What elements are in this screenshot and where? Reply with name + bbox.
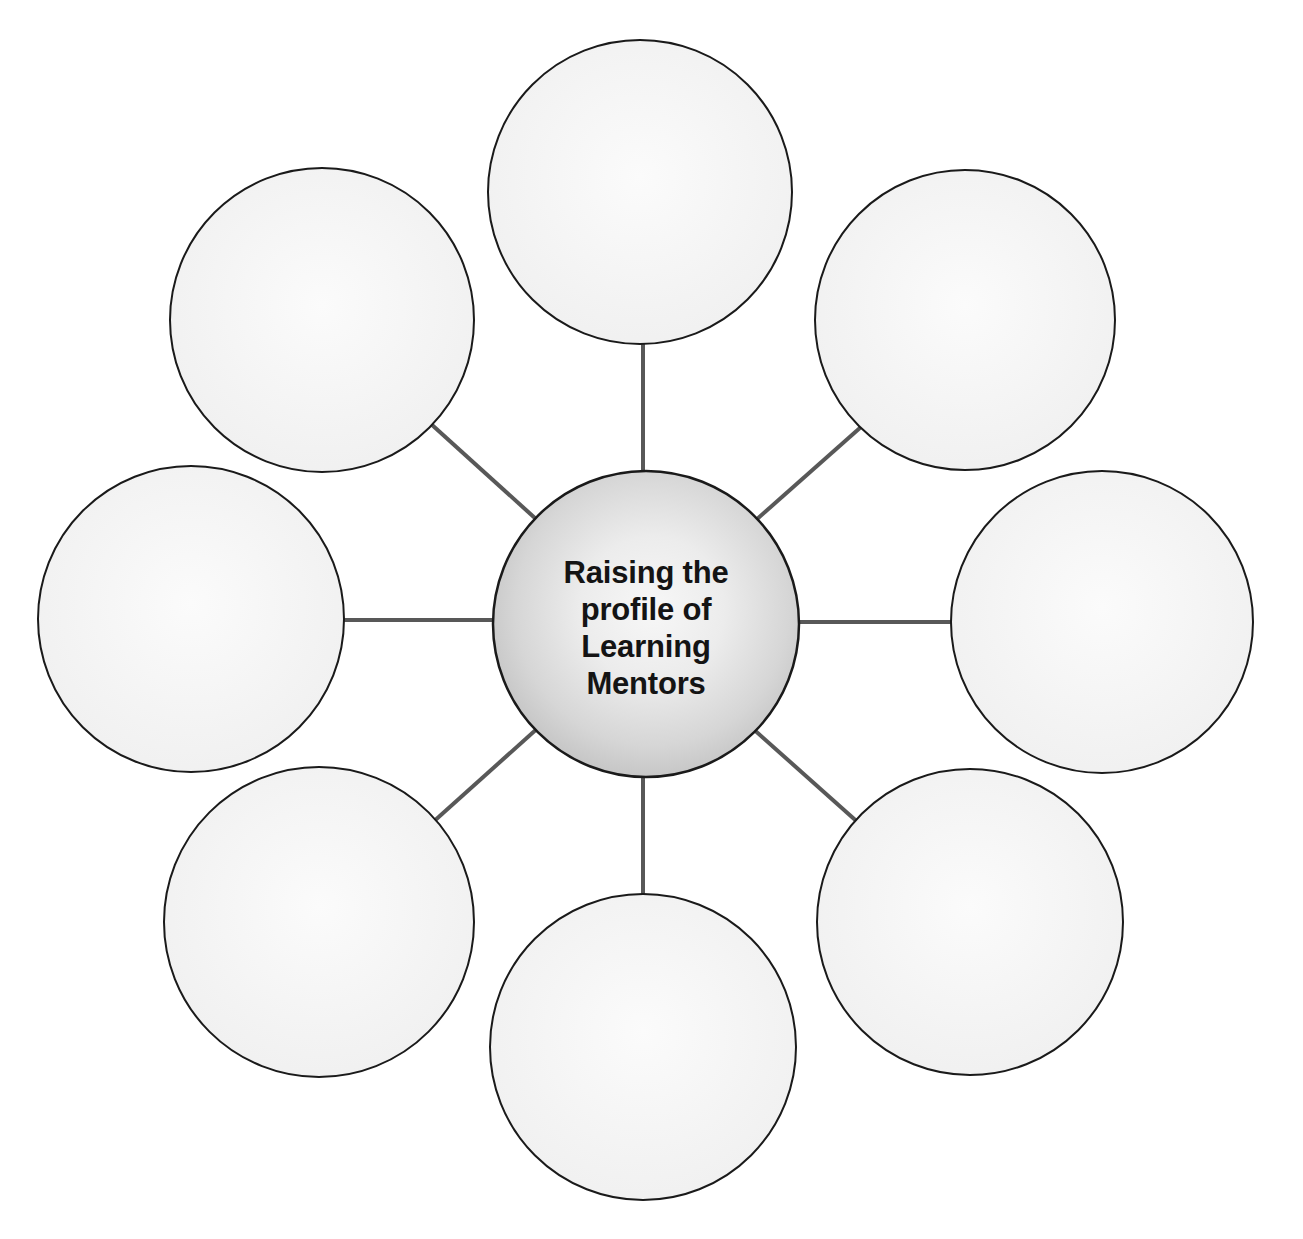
connector-line-bottom-left	[432, 727, 539, 823]
satellite-circle-bottom-right[interactable]	[817, 769, 1123, 1075]
satellite-circle-top[interactable]	[488, 40, 792, 344]
diagram-canvas: Raising the profile of Learning Mentors	[0, 0, 1303, 1239]
spider-diagram: Raising the profile of Learning Mentors	[0, 0, 1303, 1239]
center-label-line-1: Raising the	[564, 555, 729, 590]
connector-line-bottom-right	[751, 727, 862, 826]
connector-line-top-right	[756, 427, 861, 520]
center-label-line-3: Learning	[581, 629, 710, 664]
satellite-circle-top-right[interactable]	[815, 170, 1115, 470]
satellite-circle-top-left[interactable]	[170, 168, 474, 472]
satellite-circle-bottom[interactable]	[490, 894, 796, 1200]
center-label-line-4: Mentors	[586, 666, 705, 701]
satellite-circle-left[interactable]	[38, 466, 344, 772]
center-label-line-2: profile of	[581, 592, 712, 627]
satellite-circle-bottom-left[interactable]	[164, 767, 474, 1077]
satellite-circle-right[interactable]	[951, 471, 1253, 773]
connector-line-top-left	[431, 424, 536, 519]
